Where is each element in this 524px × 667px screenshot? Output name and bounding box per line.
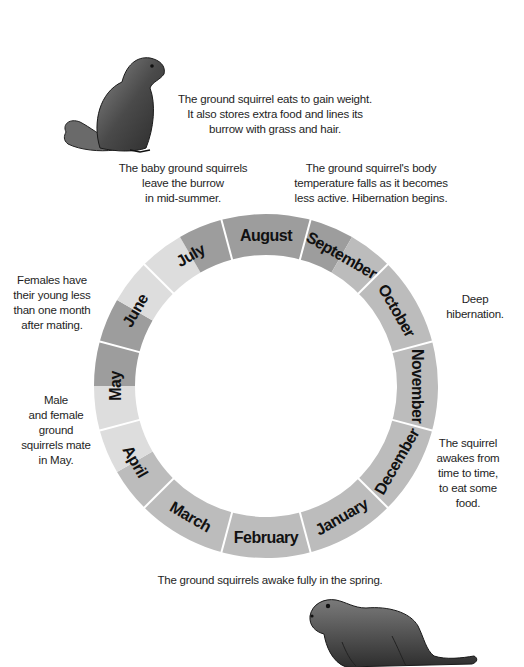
crouching-squirrel-illustration [306, 596, 480, 667]
month-label-august: August [240, 227, 293, 244]
month-label-november: November [409, 349, 426, 424]
month-wheel: AugustSeptemberOctoberNovemberDecemberJa… [0, 0, 524, 667]
month-label-may: May [107, 371, 124, 401]
wheel-dividers [99, 219, 433, 553]
month-label-february: February [234, 529, 299, 546]
